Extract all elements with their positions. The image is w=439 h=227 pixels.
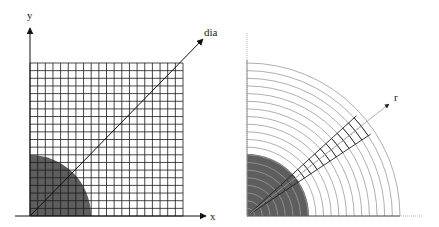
diagonal-axis bbox=[30, 39, 203, 216]
diagonal-label: dia bbox=[204, 26, 218, 38]
wedge-cell-boundary bbox=[326, 144, 336, 157]
polar-panel: r bbox=[247, 33, 422, 216]
wedge-cell-boundary bbox=[332, 138, 343, 152]
x-axis-label: x bbox=[210, 210, 216, 222]
y-axis-label: y bbox=[27, 9, 33, 21]
radial-label: r bbox=[394, 91, 398, 103]
cartesian-panel: y x dia bbox=[15, 9, 218, 222]
wedge-cell-boundary bbox=[315, 154, 324, 165]
wedge-cell-boundary bbox=[337, 133, 349, 148]
wedge-cell-boundary bbox=[320, 149, 330, 161]
diagram-canvas: y x dia r bbox=[0, 0, 439, 227]
